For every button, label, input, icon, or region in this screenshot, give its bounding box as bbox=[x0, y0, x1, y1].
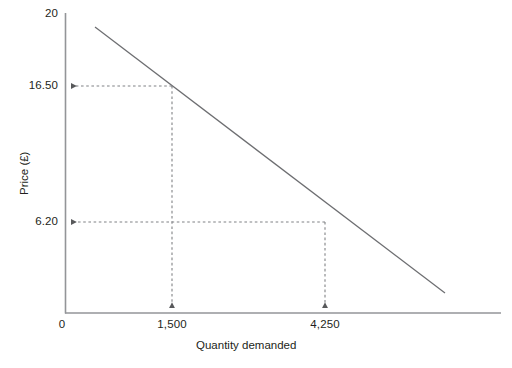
x-tick-label-4250: 4,250 bbox=[295, 318, 355, 330]
x-tick-label-origin: 0 bbox=[52, 318, 72, 330]
demand-curve-figure: 20 16.50 6.20 0 1,500 4,250 Price (£) Qu… bbox=[0, 0, 512, 368]
x-tick-label-1500: 1,500 bbox=[142, 318, 202, 330]
y-tick-label-6-20: 6.20 bbox=[0, 215, 58, 227]
x-axis-title: Quantity demanded bbox=[196, 339, 296, 351]
y-tick-label-top: 20 bbox=[8, 7, 58, 19]
y-tick-label-16-50: 16.50 bbox=[0, 79, 58, 91]
demand-curve-line bbox=[95, 27, 445, 293]
chart-canvas bbox=[0, 0, 512, 368]
y-axis-title: Price (£) bbox=[18, 152, 30, 195]
